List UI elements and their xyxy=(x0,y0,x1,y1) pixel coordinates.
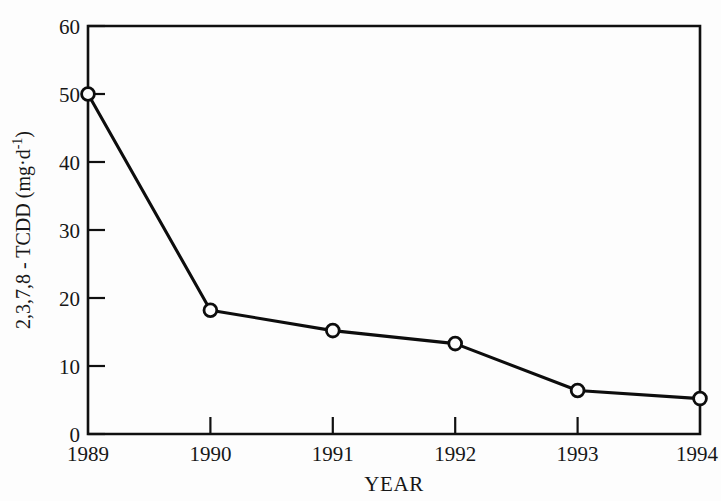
data-point-1993 xyxy=(571,384,584,397)
x-tick-label-1993: 1993 xyxy=(557,442,599,466)
svg-text:2,3,7,8 - TCDD (mg·d-1): 2,3,7,8 - TCDD (mg·d-1) xyxy=(10,131,35,329)
data-point-1989 xyxy=(82,88,95,101)
x-axis-title: YEAR xyxy=(364,472,424,496)
x-axis-ticks xyxy=(210,417,577,434)
data-point-1994 xyxy=(694,392,707,405)
y-axis-title-exponent: -1 xyxy=(10,138,25,150)
data-point-1992 xyxy=(449,337,462,350)
y-tick-label-20: 20 xyxy=(59,287,80,311)
y-tick-label-10: 10 xyxy=(59,355,80,379)
data-point-1991 xyxy=(326,324,339,337)
x-tick-label-1992: 1992 xyxy=(434,442,476,466)
x-axis-tick-labels: 1989 1990 1991 1992 1993 1994 xyxy=(67,442,719,466)
y-axis-title: 2,3,7,8 - TCDD (mg·d-1) xyxy=(10,131,35,329)
y-axis-title-main: 2,3,7,8 - TCDD (mg·d xyxy=(12,149,35,329)
x-tick-label-1989: 1989 xyxy=(67,442,109,466)
y-tick-label-50: 50 xyxy=(59,83,80,107)
series-line-tcdd xyxy=(88,94,700,399)
x-tick-label-1990: 1990 xyxy=(189,442,231,466)
y-tick-label-40: 40 xyxy=(59,151,80,175)
x-tick-label-1991: 1991 xyxy=(312,442,354,466)
y-tick-label-30: 30 xyxy=(59,219,80,243)
y-axis-title-suffix: ) xyxy=(12,131,35,138)
plot-frame xyxy=(88,26,700,434)
chart-container: 0 10 20 30 40 50 60 1989 1990 1991 1992 … xyxy=(0,0,721,501)
y-axis-tick-labels: 0 10 20 30 40 50 60 xyxy=(59,15,80,447)
x-tick-label-1994: 1994 xyxy=(676,442,719,466)
y-tick-label-60: 60 xyxy=(59,15,80,39)
data-point-1990 xyxy=(204,304,217,317)
line-chart: 0 10 20 30 40 50 60 1989 1990 1991 1992 … xyxy=(0,0,721,501)
